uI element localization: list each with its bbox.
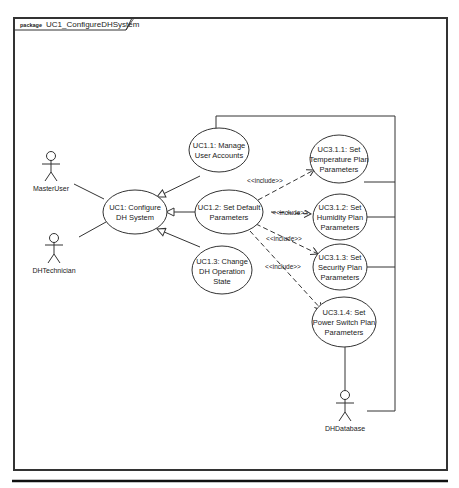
use-case-uc3-1-2[interactable]: UC3.1.2: Set Humidity Plan Parameters bbox=[313, 194, 367, 240]
svg-text:Parameters: Parameters bbox=[325, 328, 364, 337]
use-case-uc1[interactable]: UC1: Configure DH System bbox=[103, 190, 167, 234]
include-label: <<include>> bbox=[247, 177, 283, 184]
svg-text:Parameters: Parameters bbox=[321, 223, 360, 232]
package-frame: package UC1_ConfigureDHSystem bbox=[14, 18, 447, 470]
svg-text:Temperature Plan: Temperature Plan bbox=[309, 155, 368, 164]
stick-figure-icon bbox=[45, 234, 63, 264]
actor-label: MasterUser bbox=[33, 185, 70, 192]
svg-text:UC3.1.4: Set: UC3.1.4: Set bbox=[323, 308, 367, 317]
actor-master-user[interactable]: MasterUser bbox=[33, 152, 70, 193]
actor-label: DHDatabase bbox=[325, 425, 365, 432]
actor-dh-database[interactable]: DHDatabase bbox=[325, 391, 365, 433]
use-case-uc1-3[interactable]: UC1.3: Change DH Operation State bbox=[192, 246, 252, 294]
use-case-uc3-1-1[interactable]: UC3.1.1: Set Temperature Plan Parameters bbox=[309, 135, 368, 183]
svg-text:Security Plan: Security Plan bbox=[318, 263, 362, 272]
svg-text:DH Operation: DH Operation bbox=[199, 267, 245, 276]
include-label: <<include>> bbox=[272, 209, 308, 216]
svg-text:Parameters: Parameters bbox=[321, 273, 360, 282]
stick-figure-icon bbox=[42, 152, 60, 182]
svg-text:UC1.3: Change: UC1.3: Change bbox=[196, 257, 248, 266]
svg-text:Parameters: Parameters bbox=[320, 165, 359, 174]
stick-figure-icon bbox=[336, 391, 354, 422]
use-case-uc1-2[interactable]: UC1.2: Set Default Parameters bbox=[195, 190, 263, 234]
include-label: <<include>> bbox=[266, 235, 302, 242]
svg-text:State: State bbox=[213, 277, 231, 286]
include-label: <<include>> bbox=[265, 263, 301, 270]
svg-text:UC1.1: Manage: UC1.1: Manage bbox=[193, 141, 246, 150]
svg-text:Parameters: Parameters bbox=[210, 213, 249, 222]
actor-dh-technician[interactable]: DHTechnician bbox=[32, 234, 75, 275]
svg-text:UC3.1.1: Set: UC3.1.1: Set bbox=[318, 145, 362, 154]
package-name: UC1_ConfigureDHSystem bbox=[46, 20, 140, 29]
use-case-uc3-1-3[interactable]: UC3.1.3: Set Security Plan Parameters bbox=[313, 244, 367, 290]
svg-text:UC3.1.3: Set: UC3.1.3: Set bbox=[319, 253, 363, 262]
use-case-uc3-1-4[interactable]: UC3.1.4: Set Power Switch Plan Parameter… bbox=[312, 297, 376, 347]
use-case-diagram: package UC1_ConfigureDHSystem <<include>… bbox=[0, 0, 459, 488]
svg-text:UC1: Configure: UC1: Configure bbox=[109, 203, 161, 212]
svg-text:Power Switch Plan: Power Switch Plan bbox=[313, 318, 376, 327]
actor-label: DHTechnician bbox=[32, 267, 75, 274]
svg-text:Humidity Plan: Humidity Plan bbox=[317, 213, 363, 222]
svg-text:UC3.1.2: Set: UC3.1.2: Set bbox=[319, 203, 363, 212]
svg-text:User Accounts: User Accounts bbox=[195, 151, 244, 160]
svg-text:DH System: DH System bbox=[116, 213, 154, 222]
use-case-uc1-1[interactable]: UC1.1: Manage User Accounts bbox=[189, 128, 249, 172]
package-keyword: package bbox=[20, 22, 42, 28]
svg-text:UC1.2: Set Default: UC1.2: Set Default bbox=[198, 203, 261, 212]
